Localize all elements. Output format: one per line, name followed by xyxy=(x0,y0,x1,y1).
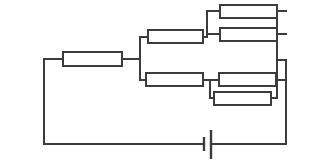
circuit-diagram xyxy=(0,0,313,165)
resistor-r1-series-main xyxy=(63,52,140,66)
circuit-svg-canvas xyxy=(0,0,313,165)
upper-parallel-pair xyxy=(207,5,286,60)
resistor-r2-body xyxy=(148,30,203,43)
resistor-r4-body xyxy=(220,28,277,41)
resistor-r1-body xyxy=(63,52,122,66)
resistor-r3-body xyxy=(220,5,277,18)
upper-branch xyxy=(140,5,286,60)
lower-parallel-pair xyxy=(210,60,286,105)
battery-symbol xyxy=(204,130,211,159)
resistor-r6-body xyxy=(219,73,276,86)
resistor-r7-body xyxy=(214,92,271,105)
resistor-r5-body xyxy=(146,73,203,86)
lower-branch xyxy=(140,60,286,105)
